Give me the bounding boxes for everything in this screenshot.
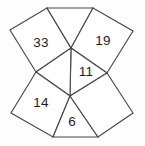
label-11: 11 — [79, 64, 93, 79]
polygon-net-diagram: 33 19 11 14 6 — [0, 0, 145, 146]
label-14: 14 — [33, 95, 49, 110]
polygon-net-figure: 33 19 11 14 6 — [0, 0, 145, 146]
label-6: 6 — [68, 114, 76, 129]
label-19: 19 — [95, 33, 110, 48]
label-33: 33 — [33, 35, 48, 50]
